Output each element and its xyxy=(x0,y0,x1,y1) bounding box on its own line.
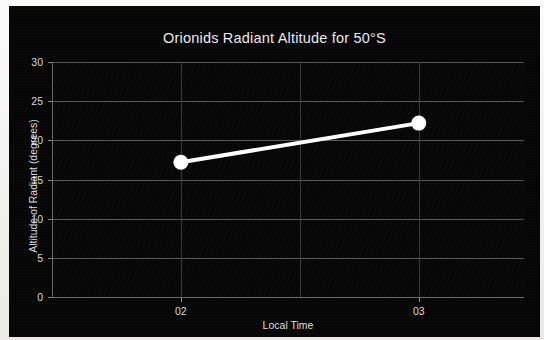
y-tick-label: 0 xyxy=(9,291,43,303)
x-tick-label: 02 xyxy=(161,305,201,317)
data-point-marker xyxy=(411,116,426,131)
y-tick-mark xyxy=(48,297,52,298)
y-tick-label: 30 xyxy=(9,56,43,68)
x-axis-line xyxy=(52,297,524,298)
series-line xyxy=(181,123,419,162)
data-point-marker xyxy=(173,155,188,170)
x-tick-label: 03 xyxy=(399,305,439,317)
chart-figure: Orionids Radiant Altitude for 50°S 05101… xyxy=(9,6,540,337)
x-tick-mark xyxy=(181,298,182,302)
chart-screenshot: Orionids Radiant Altitude for 50°S 05101… xyxy=(0,0,544,340)
y-axis-label: Altitude of Radiant (degrees) xyxy=(27,106,39,266)
data-series-layer xyxy=(52,62,524,297)
chart-title: Orionids Radiant Altitude for 50°S xyxy=(9,30,540,46)
x-tick-mark xyxy=(419,298,420,302)
x-axis-label: Local Time xyxy=(52,319,524,331)
